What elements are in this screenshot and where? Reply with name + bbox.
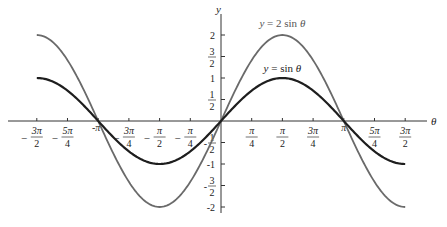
x-tick-numerator: π xyxy=(157,125,163,136)
x-tick: 3π4 xyxy=(307,118,319,149)
y-tick-numerator: 1 xyxy=(210,89,215,100)
y-tick: 32- xyxy=(204,175,225,198)
y-tick-label: 1 xyxy=(210,73,215,84)
sine-comparison-chart: θ y 3π2–5π4–-π3π4–π2–π4–π4π23π4π5π43π2 2… xyxy=(0,0,447,227)
x-tick: 5π4– xyxy=(51,118,73,149)
x-tick-denominator: 4 xyxy=(372,138,377,149)
x-tick: π2 xyxy=(276,118,288,149)
y-tick-minus: - xyxy=(204,181,207,192)
x-tick-numerator: π xyxy=(280,125,286,136)
y-tick: 32 xyxy=(208,46,225,69)
y-tick-label: -2 xyxy=(207,202,215,213)
x-tick: 3π2 xyxy=(399,118,411,149)
x-tick-minus: – xyxy=(174,132,181,143)
x-tick-denominator: 2 xyxy=(157,138,162,149)
x-tick-denominator: 4 xyxy=(188,138,193,149)
x-tick: π2– xyxy=(144,118,166,149)
x-tick-denominator: 4 xyxy=(249,138,254,149)
x-tick: 3π4– xyxy=(113,118,135,149)
x-tick-denominator: 4 xyxy=(126,138,131,149)
x-tick: 5π4 xyxy=(369,118,381,149)
y-tick: 2 xyxy=(210,30,225,41)
y-tick-denominator: 2 xyxy=(210,187,215,198)
x-tick-denominator: 4 xyxy=(311,138,316,149)
y-tick: 12 xyxy=(208,89,225,112)
x-tick-minus: – xyxy=(21,132,28,143)
x-tick-numerator: 3π xyxy=(399,125,411,136)
y-axis-label: y xyxy=(215,3,221,15)
y-tick-numerator: 3 xyxy=(210,175,215,186)
x-tick-numerator: 5π xyxy=(369,125,380,136)
y-tick: -2 xyxy=(207,202,225,213)
y-tick-numerator: 3 xyxy=(210,46,215,57)
x-tick-denominator: 2 xyxy=(280,138,285,149)
x-tick-denominator: 2 xyxy=(34,138,39,149)
x-tick: π4 xyxy=(246,118,258,149)
label-sin-theta: y = sin θ xyxy=(263,62,302,74)
y-tick-denominator: 2 xyxy=(210,58,215,69)
x-tick-numerator: 3π xyxy=(307,125,319,136)
x-tick-minus: – xyxy=(144,132,151,143)
y-tick: 1 xyxy=(210,73,225,84)
x-tick-numerator: 3π xyxy=(123,125,135,136)
x-tick: 3π2– xyxy=(21,118,43,149)
x-tick-denominator: 4 xyxy=(65,138,70,149)
x-tick-numerator: π xyxy=(249,125,255,136)
x-tick-minus: – xyxy=(51,132,58,143)
y-tick-label: -1 xyxy=(207,159,215,170)
y-tick-label: 2 xyxy=(210,30,215,41)
x-axis-label: θ xyxy=(431,115,437,127)
y-tick: -1 xyxy=(207,159,225,170)
x-tick: π4– xyxy=(174,118,196,149)
y-tick-denominator: 2 xyxy=(210,101,215,112)
x-tick-numerator: 3π xyxy=(31,125,43,136)
x-tick-denominator: 2 xyxy=(403,138,408,149)
x-tick-numerator: 5π xyxy=(62,125,73,136)
label-2-sin-theta: y = 2 sin θ xyxy=(258,17,305,29)
x-tick-numerator: π xyxy=(188,125,194,136)
